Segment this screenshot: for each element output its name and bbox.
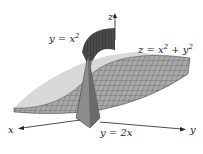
y-axis-label: y (190, 125, 196, 135)
z-axis-label: z (108, 12, 113, 22)
paraboloid-equation: z = x2 + y2 (138, 44, 193, 55)
x-axis (22, 120, 80, 128)
y-axis-arrow-icon (180, 127, 186, 132)
x-axis-arrow-icon (18, 126, 24, 130)
x-axis-label: x (8, 125, 14, 135)
plane-equation: y = 2x (100, 128, 132, 138)
cylinder-equation: y = x2 (49, 33, 80, 44)
z-axis-arrow-icon (113, 13, 117, 18)
